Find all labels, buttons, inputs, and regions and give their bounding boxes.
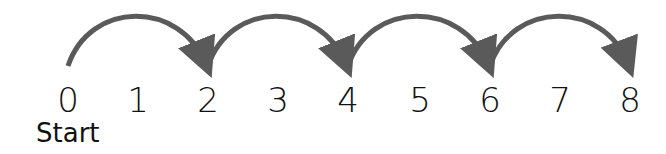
start-label: Start [36, 118, 100, 148]
number-2: 2 [188, 80, 228, 120]
number-0: 0 [48, 80, 88, 120]
number-4: 4 [328, 80, 368, 120]
number-7: 7 [540, 80, 580, 120]
jump-arrow-4-6 [348, 16, 488, 66]
jump-arrow-6-8 [490, 16, 628, 66]
number-8: 8 [610, 80, 650, 120]
jump-arrows [0, 0, 666, 154]
number-3: 3 [258, 80, 298, 120]
jump-arrow-2-4 [208, 16, 346, 66]
number-5: 5 [400, 80, 440, 120]
jump-arrow-0-2 [68, 16, 206, 66]
number-6: 6 [470, 80, 510, 120]
number-1: 1 [118, 80, 158, 120]
